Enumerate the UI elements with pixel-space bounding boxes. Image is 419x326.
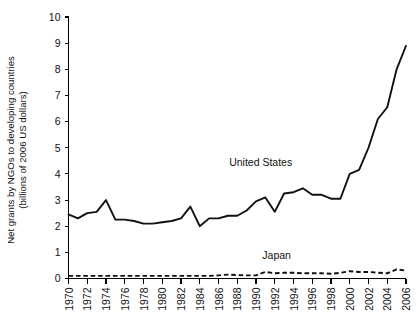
- x-tick-label: 1982: [175, 287, 187, 311]
- x-tick-label: 2004: [381, 287, 393, 311]
- x-tick-label: 1980: [156, 287, 168, 311]
- series-label-united-states: United States: [229, 156, 292, 168]
- y-tick-label: 10: [49, 11, 61, 23]
- series-label-japan: Japan: [262, 249, 291, 261]
- y-tick-label: 6: [55, 115, 61, 127]
- x-tick-label: 1994: [288, 287, 300, 311]
- x-axis-ticks: 1970197219741976197819801982198419861988…: [63, 279, 413, 311]
- x-tick-label: 1978: [138, 287, 150, 311]
- y-axis-title-line2: (billions of 2006 US dollars): [17, 91, 28, 208]
- x-tick-label: 1992: [269, 287, 281, 311]
- x-tick-label: 1988: [231, 287, 243, 311]
- x-tick-label: 1976: [119, 287, 131, 311]
- x-tick-label: 2002: [363, 287, 375, 311]
- y-axis-ticks: 012345678910: [49, 11, 69, 285]
- y-tick-label: 0: [55, 272, 61, 284]
- x-tick-label: 1974: [100, 287, 112, 311]
- series-line-japan: [69, 269, 407, 276]
- x-tick-label: 1990: [250, 287, 262, 311]
- x-tick-label: 1986: [213, 287, 225, 311]
- y-tick-label: 7: [55, 89, 61, 101]
- y-tick-label: 3: [55, 194, 61, 206]
- y-tick-label: 9: [55, 37, 61, 49]
- y-tick-label: 1: [55, 246, 61, 258]
- y-tick-label: 5: [55, 142, 61, 154]
- x-tick-label: 1998: [325, 287, 337, 311]
- y-axis-title-line1: Net grants by NGOs to developing countri…: [5, 56, 16, 244]
- line-chart: Net grants by NGOs to developing countri…: [0, 0, 419, 326]
- y-tick-label: 4: [55, 168, 61, 180]
- x-tick-label: 1984: [194, 287, 206, 311]
- chart-figure: Net grants by NGOs to developing countri…: [0, 0, 419, 326]
- y-tick-label: 2: [55, 220, 61, 232]
- series-line-united-states: [69, 46, 407, 226]
- x-tick-label: 1972: [81, 287, 93, 311]
- x-tick-label: 2000: [344, 287, 356, 311]
- y-tick-label: 8: [55, 63, 61, 75]
- x-tick-label: 1970: [63, 287, 75, 311]
- x-tick-label: 2006: [400, 287, 412, 311]
- x-tick-label: 1996: [306, 287, 318, 311]
